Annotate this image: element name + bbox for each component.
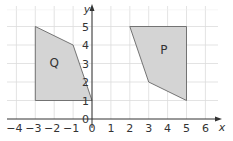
x-tick-label: −1: [63, 122, 79, 135]
x-tick-label: 3: [145, 122, 152, 135]
grid-plot: QP xy−4−3−2−10123456012345: [0, 0, 233, 141]
x-tick-label: −3: [25, 122, 41, 135]
y-tick-label: 0: [82, 113, 89, 126]
coordinate-grid-diagram: QP xy−4−3−2−10123456012345: [0, 0, 233, 141]
x-tick-label: 0: [89, 122, 96, 135]
y-axis-label: y: [83, 3, 91, 16]
shape-label-P: P: [160, 43, 167, 57]
x-tick-label: 1: [107, 122, 114, 135]
x-tick-label: 6: [202, 122, 209, 135]
x-axis-label: x: [218, 121, 226, 134]
y-tick-label: 3: [82, 58, 89, 71]
y-tick-label: 1: [82, 95, 89, 108]
x-tick-label: −2: [44, 122, 60, 135]
y-tick-label: 4: [82, 39, 89, 52]
x-tick-label: −4: [6, 122, 22, 135]
x-tick-label: 2: [126, 122, 133, 135]
x-tick-label: 4: [164, 122, 171, 135]
y-tick-label: 2: [82, 76, 89, 89]
x-tick-label: 5: [183, 122, 190, 135]
shape-label-Q: Q: [49, 56, 58, 70]
y-tick-label: 5: [82, 21, 89, 34]
